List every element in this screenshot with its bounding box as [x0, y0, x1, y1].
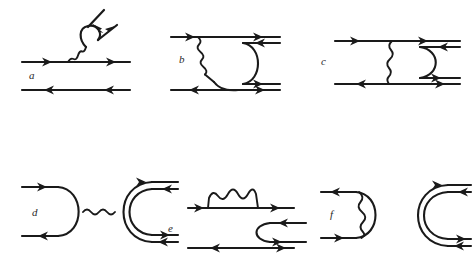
right-double-arc-outer [124, 182, 153, 242]
panel-e-canvas: e [182, 160, 312, 260]
panel-f: f [312, 160, 473, 260]
panel-label-e: e [168, 222, 173, 234]
panel-label-b: b [179, 53, 185, 65]
right-arc [257, 223, 271, 242]
panel-d: d [0, 160, 180, 260]
right-double-arc-outer [418, 185, 448, 246]
photon-stub [205, 75, 214, 83]
panel-e: e [182, 160, 312, 260]
panel-b: b [155, 0, 310, 130]
vertical-photon-wavy-line [387, 41, 393, 84]
panel-a: a [0, 0, 160, 130]
outgoing-pair-line-left [88, 10, 104, 27]
panel-label-a: a [29, 69, 35, 81]
photon-arch-wavy-line [208, 190, 258, 209]
arrowhead-up-left [92, 24, 104, 34]
panel-a-canvas: a [0, 0, 160, 130]
panel-c: c [308, 0, 473, 130]
panel-label-d: d [32, 206, 38, 218]
panel-label-f: f [330, 208, 335, 220]
right-double-arc-inner [130, 189, 153, 235]
right-arc [420, 47, 436, 78]
right-arc [243, 43, 258, 84]
vertical-photon-wavy-line [359, 192, 366, 238]
panel-f-canvas: f [312, 160, 473, 260]
panel-label-c: c [321, 55, 326, 67]
left-arc [356, 192, 376, 238]
right-double-arc-inner [424, 192, 448, 239]
pair-creation-loop [81, 26, 100, 47]
feynman-diagram-figure: a [0, 0, 473, 260]
panel-b-canvas: b [155, 0, 310, 130]
horizontal-photon-wavy-line [83, 210, 115, 215]
photon-wavy-line [68, 47, 86, 62]
panel-d-canvas: d [0, 160, 180, 260]
photon-wavy-line [198, 37, 207, 75]
panel-c-canvas: c [308, 0, 473, 130]
left-arc-loop [58, 187, 79, 236]
